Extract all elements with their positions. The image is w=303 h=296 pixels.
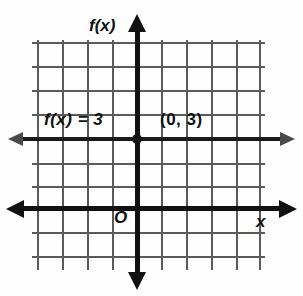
function-line-right-arrow-icon — [280, 132, 295, 146]
grid-line-horizontal — [32, 232, 265, 234]
grid-line-horizontal — [32, 66, 265, 68]
x-axis-label: x — [256, 212, 265, 232]
function-equation-label: f(x) = 3 — [44, 110, 103, 130]
grid-line-vertical — [112, 40, 114, 270]
y-axis-label: f(x) — [89, 16, 115, 36]
grid-line-vertical — [211, 40, 213, 270]
x-axis — [22, 206, 280, 211]
point-marker-0-3 — [132, 134, 142, 144]
grid-line-vertical — [37, 40, 39, 270]
grid-line-vertical — [62, 40, 64, 270]
grid-line-vertical — [87, 40, 89, 270]
grid-line-vertical — [161, 40, 163, 270]
grid-line-vertical — [236, 40, 238, 270]
grid-line-horizontal — [32, 42, 265, 44]
y-axis-up-arrow-icon — [128, 14, 146, 32]
grid-line-horizontal — [32, 90, 265, 92]
x-axis-right-arrow-icon — [279, 200, 297, 218]
grid-line-horizontal — [32, 163, 265, 165]
y-axis-fx — [135, 30, 140, 275]
function-line-left-arrow-icon — [8, 132, 23, 146]
grid-line-horizontal — [32, 186, 265, 188]
point-coordinate-label: (0, 3) — [160, 110, 203, 130]
grid-line-vertical — [186, 40, 188, 270]
y-axis-down-arrow-icon — [128, 272, 146, 290]
function-line-fx-equals-3 — [22, 137, 280, 141]
grid-line-horizontal — [32, 256, 265, 258]
grid-line-vertical — [259, 40, 261, 270]
x-axis-left-arrow-icon — [6, 200, 24, 218]
coordinate-plane-figure: f(x) x O f(x) = 3 (0, 3) — [0, 0, 303, 296]
origin-label: O — [114, 208, 127, 228]
